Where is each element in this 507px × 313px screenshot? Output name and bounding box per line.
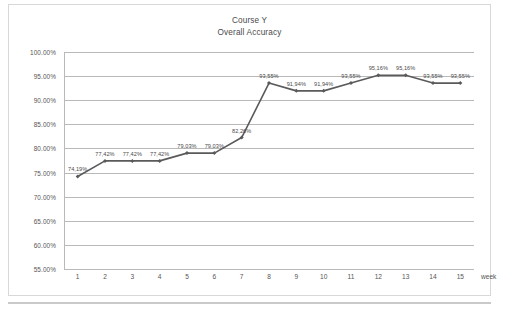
x-axis-tick-label: 13 (402, 273, 409, 280)
data-point-label: 93,55% (423, 73, 442, 79)
data-point-label: 95,16% (369, 65, 388, 71)
gridline (64, 269, 474, 270)
chart-title: Course Y (9, 15, 490, 27)
x-axis-title: week (481, 273, 496, 280)
data-point-marker (349, 81, 353, 85)
x-axis-tick-label: 3 (130, 273, 134, 280)
x-axis-tick-label: 4 (158, 273, 162, 280)
x-axis-tick-label: 9 (294, 273, 298, 280)
data-point-marker (431, 81, 435, 85)
data-point-marker (294, 89, 298, 93)
x-axis-tick-label: 1 (76, 273, 80, 280)
y-axis-tick-label: 95.00% (34, 73, 56, 80)
y-axis-tick-label: 55.00% (34, 266, 56, 273)
series-polyline (78, 75, 461, 176)
y-axis-tick-label: 70.00% (34, 193, 56, 200)
series-line-overall-accuracy (64, 52, 474, 269)
x-axis-tick-label: 14 (429, 273, 436, 280)
y-axis-tick-labels: 55.00%60.00%65.00%70.00%75.00%80.00%85.0… (9, 52, 60, 269)
x-axis-tick-label: 6 (212, 273, 216, 280)
y-axis-tick-label: 85.00% (34, 121, 56, 128)
data-point-marker (376, 73, 380, 77)
data-point-marker (158, 159, 162, 163)
x-axis-tick-label: 10 (320, 273, 327, 280)
y-axis-tick-label: 100.00% (30, 49, 56, 56)
x-axis-tick-label: 15 (457, 273, 464, 280)
x-axis-tick-label: 2 (103, 273, 107, 280)
data-point-label: 82,26% (232, 128, 251, 134)
data-point-label: 93,55% (341, 73, 360, 79)
data-point-label: 79,03% (177, 143, 196, 149)
data-point-marker (130, 159, 134, 163)
data-point-marker (322, 89, 326, 93)
data-point-label: 91,94% (314, 81, 333, 87)
bottom-divider (8, 302, 491, 304)
data-point-marker (404, 73, 408, 77)
data-point-label: 95,16% (396, 65, 415, 71)
plot-area: 74,19%77,42%77,42%77,42%79,03%79,03%82,2… (64, 52, 474, 269)
data-point-label: 91,94% (287, 81, 306, 87)
data-point-label: 93,55% (451, 73, 470, 79)
data-point-label: 77,42% (95, 151, 114, 157)
x-axis-tick-label: 5 (185, 273, 189, 280)
chart-frame: Course Y Overall Accuracy 55.00%60.00%65… (8, 4, 491, 296)
chart-title-block: Course Y Overall Accuracy (9, 15, 490, 39)
data-point-label: 77,42% (150, 151, 169, 157)
y-axis-tick-label: 60.00% (34, 241, 56, 248)
data-point-marker (185, 151, 189, 155)
y-axis-tick-label: 75.00% (34, 169, 56, 176)
y-axis-tick-label: 80.00% (34, 145, 56, 152)
data-point-label: 79,03% (205, 143, 224, 149)
data-point-label: 93,55% (259, 73, 278, 79)
x-axis-tick-label: 8 (267, 273, 271, 280)
x-axis-tick-label: 12 (375, 273, 382, 280)
x-axis-tick-label: 11 (348, 273, 355, 280)
data-point-label: 77,42% (123, 151, 142, 157)
y-axis-tick-label: 90.00% (34, 97, 56, 104)
x-axis-tick-label: 7 (240, 273, 244, 280)
data-point-label: 74,19% (68, 166, 87, 172)
data-point-marker (458, 81, 462, 85)
chart-subtitle: Overall Accuracy (9, 27, 490, 39)
x-axis-tick-labels: week 123456789101112131415 (64, 273, 474, 287)
y-axis-tick-label: 65.00% (34, 217, 56, 224)
